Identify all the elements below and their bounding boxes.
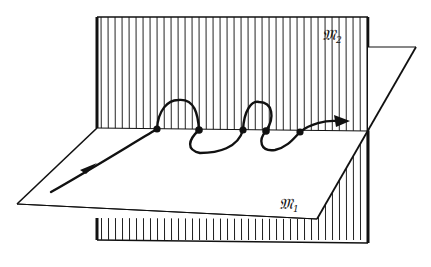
intersecting-planes-diagram: 𝔐2 𝔐1 xyxy=(0,0,431,267)
